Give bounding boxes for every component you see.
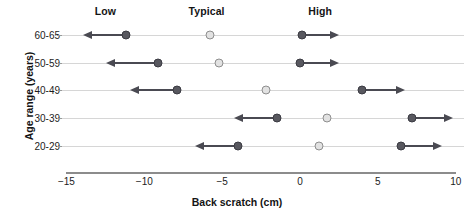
- y-tick-mark: [57, 63, 62, 64]
- marker-typical-30-39[interactable]: [323, 114, 332, 123]
- marker-high-40-49[interactable]: [358, 86, 367, 95]
- marker-low-40-49[interactable]: [172, 86, 181, 95]
- x-axis-title: Back scratch (cm): [0, 196, 474, 208]
- high-range-line: [412, 117, 445, 119]
- x-tick-label-10: 10: [450, 176, 461, 187]
- x-tick-label-0: 0: [297, 176, 303, 187]
- high-arrow-head-right-icon: [330, 31, 339, 39]
- high-range-line: [362, 89, 396, 91]
- marker-typical-50-59[interactable]: [215, 58, 224, 67]
- marker-high-60-65[interactable]: [297, 31, 306, 40]
- marker-low-50-59[interactable]: [154, 58, 163, 67]
- y-tick-mark: [57, 118, 62, 119]
- x-tick-label-5: 5: [375, 176, 381, 187]
- marker-high-20-29[interactable]: [397, 142, 406, 151]
- x-tick-label--15: −15: [58, 176, 75, 187]
- high-range-line: [401, 145, 434, 147]
- marker-typical-60-65[interactable]: [205, 31, 214, 40]
- low-range-line: [114, 62, 158, 64]
- y-tick-mark: [57, 35, 62, 36]
- marker-low-20-29[interactable]: [233, 142, 242, 151]
- low-arrow-head-left-icon: [83, 31, 92, 39]
- low-arrow-head-left-icon: [106, 59, 115, 67]
- marker-low-60-65[interactable]: [121, 31, 130, 40]
- high-arrow-head-right-icon: [396, 86, 405, 94]
- marker-typical-20-29[interactable]: [314, 142, 323, 151]
- back-scratch-chart: LowTypicalHigh Age range (years) 60-6550…: [0, 0, 474, 215]
- low-range-line: [138, 89, 177, 91]
- marker-low-30-39[interactable]: [272, 114, 281, 123]
- low-arrow-head-left-icon: [195, 142, 204, 150]
- low-arrow-head-left-icon: [130, 86, 139, 94]
- x-axis-line: [66, 172, 455, 174]
- x-tick-label--10: −10: [136, 176, 153, 187]
- marker-high-50-59[interactable]: [296, 58, 305, 67]
- high-arrow-head-right-icon: [444, 114, 453, 122]
- marker-typical-40-49[interactable]: [261, 86, 270, 95]
- high-arrow-head-right-icon: [330, 59, 339, 67]
- y-tick-mark: [57, 90, 62, 91]
- low-arrow-head-left-icon: [234, 114, 243, 122]
- y-tick-mark: [57, 146, 62, 147]
- x-tick-label--5: −5: [216, 176, 227, 187]
- marker-high-30-39[interactable]: [408, 114, 417, 123]
- high-arrow-head-right-icon: [433, 142, 442, 150]
- high-range-line: [300, 62, 331, 64]
